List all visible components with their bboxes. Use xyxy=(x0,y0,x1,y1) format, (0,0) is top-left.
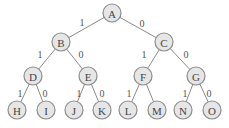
node-label: L xyxy=(125,105,132,117)
node-label: C xyxy=(160,37,167,49)
edge-labels: 1010101010110 xyxy=(18,17,212,99)
node-N: N xyxy=(174,101,192,119)
node-label: F xyxy=(140,71,146,83)
edge-label-E-J: 1 xyxy=(77,88,82,99)
node-I: I xyxy=(37,101,55,119)
node-label: B xyxy=(57,37,64,49)
node-K: K xyxy=(93,101,111,119)
node-label: J xyxy=(72,105,77,117)
node-L: L xyxy=(119,101,137,119)
node-label: E xyxy=(85,71,92,83)
edge-label-F-L: 1 xyxy=(127,88,132,99)
edge-label-B-E: 0 xyxy=(79,49,84,60)
node-label: H xyxy=(13,105,21,117)
node-label: N xyxy=(179,105,187,117)
edge-label-D-H: 1 xyxy=(18,88,23,99)
node-E: E xyxy=(79,67,97,85)
edge-label-E-K: 0 xyxy=(100,88,105,99)
node-F: F xyxy=(134,67,152,85)
edge-label-C-F: 1 xyxy=(142,49,147,60)
node-label: D xyxy=(29,71,37,83)
node-M: M xyxy=(148,101,166,119)
edge-label-D-I: 0 xyxy=(43,88,48,99)
node-O: O xyxy=(203,101,221,119)
edge-label-A-B: 1 xyxy=(80,17,85,28)
node-G: G xyxy=(187,67,205,85)
node-label: I xyxy=(44,105,48,117)
node-D: D xyxy=(24,67,42,85)
binary-tree-diagram: 1010101010110 ABCDEFGHIJKLMNO xyxy=(0,0,229,128)
edge-label-C-G: 0 xyxy=(184,49,189,60)
edge-label-A-C: 0 xyxy=(140,18,145,29)
node-label: K xyxy=(98,105,106,117)
node-label: M xyxy=(152,105,162,117)
node-H: H xyxy=(8,101,26,119)
node-B: B xyxy=(52,33,70,51)
edge-label-G-N: 1 xyxy=(183,88,188,99)
node-J: J xyxy=(65,101,83,119)
nodes: ABCDEFGHIJKLMNO xyxy=(8,4,221,119)
node-label: G xyxy=(192,71,200,83)
node-A: A xyxy=(103,4,121,22)
node-label: A xyxy=(108,8,116,20)
node-label: O xyxy=(208,105,216,117)
edge-label-G-O: 0 xyxy=(207,88,212,99)
edge-label-B-D: 1 xyxy=(38,49,43,60)
node-C: C xyxy=(155,33,173,51)
